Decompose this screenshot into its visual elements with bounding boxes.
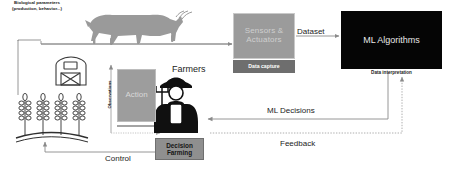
data-capture-node[interactable]: Data capture	[233, 60, 295, 73]
observations-axis-label: Observations	[107, 75, 112, 115]
decision-label-line1: Decision	[166, 142, 193, 149]
sensors-actuators-node[interactable]: Sensors & Actuators	[233, 13, 295, 59]
farmer-icon	[154, 78, 198, 134]
diagram-canvas: Sensors & Actuators Data capture ML Algo…	[0, 0, 457, 180]
control-label: Control	[105, 154, 131, 163]
cow-icon	[85, 15, 183, 45]
wheat-stalks-icon	[16, 93, 88, 142]
decision-farming-node[interactable]: Decision Farming	[155, 138, 204, 160]
barn-icon	[56, 57, 86, 85]
dataset-label: Dataset	[297, 27, 325, 36]
ml-algorithms-node[interactable]: ML Algorithms	[341, 11, 442, 69]
ml-algorithms-label: ML Algorithms	[363, 35, 420, 45]
data-interpretation-label: Data interpretation	[341, 70, 442, 75]
decision-label-line2: Farming	[167, 149, 192, 156]
data-capture-label: Data capture	[248, 64, 279, 70]
action-node[interactable]: Action	[117, 69, 156, 122]
signal-waves-icon	[176, 11, 192, 19]
action-label: Action	[125, 91, 147, 100]
farmers-label: Farmers	[172, 64, 206, 74]
ml-decisions-label: ML Decisions	[267, 106, 315, 115]
feedback-label: Feedback	[280, 139, 315, 148]
sensors-label-line2: Actuators	[245, 36, 284, 45]
